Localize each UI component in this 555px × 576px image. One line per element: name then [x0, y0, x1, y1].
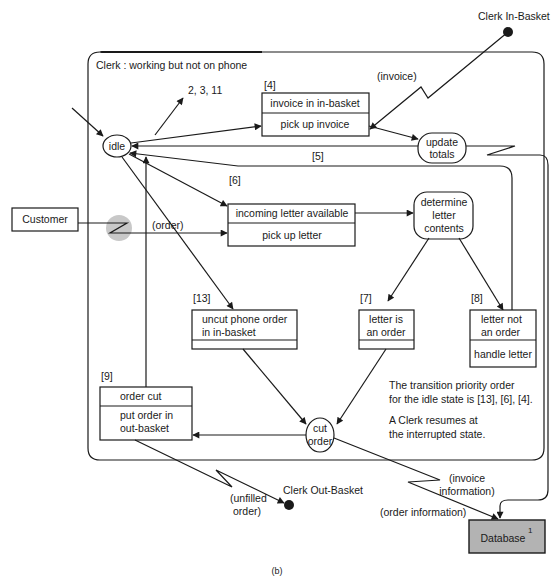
t9-event: order cut: [120, 390, 162, 402]
t13-event-line1: uncut phone order: [202, 313, 288, 325]
cut-order-line2: order: [308, 435, 333, 447]
figure-caption: (b): [272, 566, 283, 576]
order-signal-label: (order): [152, 219, 184, 231]
determine-line3: contents: [424, 222, 464, 234]
t7-id: [7]: [360, 292, 372, 304]
note-priority-line1: The transition priority order: [389, 379, 515, 391]
clerk-out-basket-node: [284, 500, 294, 510]
frame-title: Clerk : working but not on phone: [96, 59, 247, 71]
t9-action-line2: out-basket: [120, 422, 169, 434]
database-label: Database: [481, 532, 526, 544]
state-diagram: Clerk : working but not on phone Clerk I…: [0, 0, 555, 576]
t13-event-line2: in in-basket: [202, 326, 256, 338]
invoice-information-line2: information): [439, 485, 494, 497]
t9-action-line1: put order in: [120, 409, 173, 421]
invoice-signal-label: (invoice): [377, 70, 417, 82]
t9-id: [9]: [101, 370, 113, 382]
unfilled-order-line2: order): [233, 505, 261, 517]
unfilled-order-line1: (unfilled: [230, 492, 267, 504]
invoice-information-line1: (invoice: [449, 472, 485, 484]
cut-order-line1: cut: [313, 422, 327, 434]
note-resume-line1: A Clerk resumes at: [389, 414, 478, 426]
determine-line2: letter: [432, 209, 456, 221]
t8-event-line2: an order: [481, 326, 521, 338]
t7-event-line1: letter is: [369, 313, 403, 325]
t4-id: [4]: [264, 79, 276, 91]
determine-to-t7-arrow: [388, 238, 429, 301]
note-resume-line2: the interrupted state.: [389, 428, 485, 440]
t4-event: invoice in in-basket: [270, 97, 359, 109]
t8-id: [8]: [471, 292, 483, 304]
database-superscript: 1: [528, 526, 533, 535]
idle-to-t4-arrow: [131, 126, 261, 143]
t6-event: incoming letter available: [236, 207, 349, 219]
t4-action: pick up invoice: [281, 118, 350, 130]
t13-id: [13]: [193, 292, 211, 304]
clerk-out-basket-label: Clerk Out-Basket: [283, 484, 363, 496]
update-totals-line2: totals: [429, 148, 454, 160]
t5-id: [5]: [312, 150, 324, 162]
note-priority-line2: for the idle state is [13], [6], [4].: [389, 393, 533, 405]
customer-label: Customer: [22, 213, 68, 225]
clerk-in-basket-label: Clerk In-Basket: [478, 10, 550, 22]
other-transitions-label: 2, 3, 11: [188, 84, 222, 96]
other-transitions-arrow: [155, 98, 183, 135]
t8-action: handle letter: [474, 348, 532, 360]
t6-action: pick up letter: [262, 229, 322, 241]
t7-event-line2: an order: [366, 326, 406, 338]
t13-to-cut-arrow: [243, 349, 306, 424]
determine-line1: determine: [421, 196, 468, 208]
state-idle-label: idle: [109, 140, 126, 152]
t6-id: [6]: [229, 174, 241, 186]
t8-event-line1: letter not: [481, 313, 522, 325]
t4-to-update-arrow: [369, 126, 418, 139]
order-information-label: (order information): [380, 506, 466, 518]
update-totals-line1: update: [426, 136, 458, 148]
t7-to-cut-arrow: [337, 349, 386, 424]
idle-to-t6-arrow: [129, 154, 227, 206]
